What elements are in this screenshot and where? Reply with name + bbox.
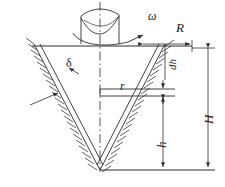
label-dh: dh xyxy=(167,59,178,70)
element-dh xyxy=(100,89,175,96)
label-H: H xyxy=(202,115,215,124)
delta-leader xyxy=(30,68,79,105)
label-omega: ω xyxy=(148,10,156,22)
diagram-svg xyxy=(0,0,225,187)
label-h: h xyxy=(155,142,168,149)
label-r: r xyxy=(120,80,125,92)
height-H-dimension xyxy=(192,48,215,167)
label-R: R xyxy=(176,21,184,34)
figure-canvas: ω R δ r dh h H xyxy=(0,0,225,187)
cone-right-wall xyxy=(97,44,165,170)
label-delta: δ xyxy=(66,57,72,69)
rotation-arrow-omega xyxy=(73,33,143,45)
